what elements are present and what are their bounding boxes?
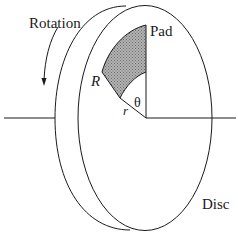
angle-theta-label: θ	[134, 96, 141, 110]
rotation-label: Rotation	[29, 16, 81, 31]
rotation-arrowhead-icon	[42, 78, 47, 86]
rotation-arrow	[44, 27, 58, 80]
inner-radius-label: r	[123, 104, 128, 117]
disc-label: Disc	[202, 197, 230, 212]
pad-label: Pad	[150, 24, 173, 39]
outer-radius-label: R	[91, 74, 100, 89]
